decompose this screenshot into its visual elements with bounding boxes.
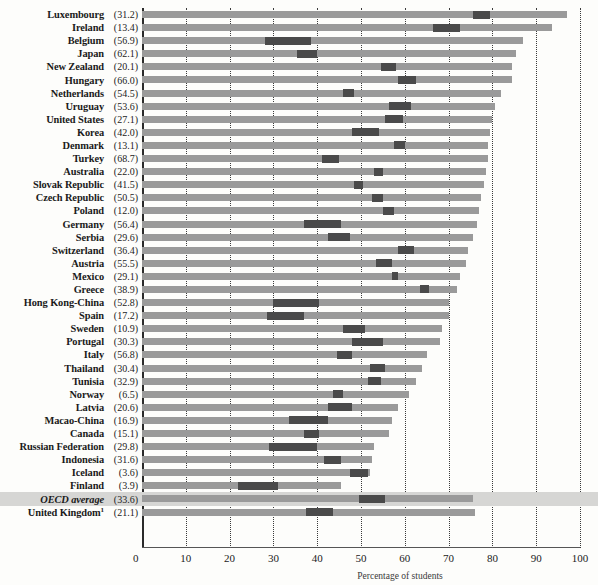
bar-wrap <box>142 482 580 489</box>
bar-segment-total <box>142 155 488 162</box>
category-label-greece: Greece(38.9) <box>0 283 142 296</box>
bar-wrap <box>142 391 580 398</box>
bar-row <box>142 492 580 505</box>
bar-row <box>142 73 580 86</box>
bar-segment-total <box>142 404 398 411</box>
bar-wrap <box>142 129 580 136</box>
bar-segment-total <box>142 351 427 358</box>
country-value: (42.0) <box>104 127 138 138</box>
category-label-hong-kong-china: Hong Kong-China(52.8) <box>0 296 142 309</box>
bar-wrap <box>142 168 580 175</box>
bar-wrap <box>142 155 580 162</box>
bar-wrap <box>142 116 580 123</box>
country-value: (68.7) <box>104 153 138 164</box>
country-value: (3.6) <box>104 467 138 478</box>
bar-wrap <box>142 142 580 149</box>
country-name: Korea <box>77 127 104 138</box>
country-value: (30.4) <box>104 363 138 374</box>
bar-wrap <box>142 286 580 293</box>
category-label-germany: Germany(56.4) <box>0 218 142 231</box>
bar-segment-total <box>142 90 501 97</box>
category-label-new-zealand: New Zealand(20.1) <box>0 60 142 73</box>
bar-row <box>142 87 580 100</box>
bar-segment-highlighted <box>297 50 317 58</box>
gridline-100 <box>580 8 582 548</box>
bar-row <box>142 283 580 296</box>
bar-segment-highlighted <box>473 11 491 19</box>
x-tick-label-30: 30 <box>268 552 279 564</box>
bar-segment-total <box>142 286 457 293</box>
country-value: (50.5) <box>104 192 138 203</box>
bar-row <box>142 322 580 335</box>
country-value: (55.5) <box>104 258 138 269</box>
bar-wrap <box>142 430 580 437</box>
country-name: OECD average <box>40 494 104 505</box>
country-name: Portugal <box>66 336 104 347</box>
category-label-luxembourg: Luxembourg(31.2) <box>0 8 142 21</box>
category-label-column: Luxembourg(31.2)Ireland(13.4)Belgium(56.… <box>0 8 142 548</box>
bar-segment-total <box>142 273 460 280</box>
bar-wrap <box>142 63 580 70</box>
bar-segment-highlighted <box>381 63 396 71</box>
bar-segment-highlighted <box>289 416 328 424</box>
bar-row <box>142 257 580 270</box>
x-tick-label-100: 100 <box>572 552 589 564</box>
country-name: New Zealand <box>47 61 105 72</box>
country-value: (15.1) <box>104 428 138 439</box>
category-label-tunisia: Tunisia(32.9) <box>0 375 142 388</box>
bar-row <box>142 178 580 191</box>
bar-segment-total <box>142 142 488 149</box>
bar-segment-total <box>142 338 440 345</box>
country-value: (66.0) <box>104 75 138 86</box>
bar-row <box>142 362 580 375</box>
bar-wrap <box>142 351 580 358</box>
bar-segment-total <box>142 417 392 424</box>
country-value: (31.2) <box>104 9 138 20</box>
country-name: Turkey <box>73 153 104 164</box>
x-tick-labels: 102030405060708090100 <box>142 552 580 570</box>
bar-row <box>142 388 580 401</box>
bar-segment-highlighted <box>273 299 319 307</box>
bar-segment-total <box>142 207 479 214</box>
country-name: Greece <box>74 284 104 295</box>
bar-segment-total <box>142 469 370 476</box>
bar-row <box>142 506 580 519</box>
chart-root: Luxembourg(31.2)Ireland(13.4)Belgium(56.… <box>0 0 598 585</box>
bar-segment-total <box>142 116 492 123</box>
country-name: Germany <box>63 219 104 230</box>
bar-segment-total <box>142 234 473 241</box>
bar-row <box>142 126 580 139</box>
bar-segment-highlighted <box>265 37 311 45</box>
bar-wrap <box>142 221 580 228</box>
x-axis-title-text: Percentage of students <box>147 571 442 581</box>
bar-segment-highlighted <box>343 89 354 97</box>
bar-wrap <box>142 509 580 516</box>
country-value: (17.2) <box>104 310 138 321</box>
bar-segment-total <box>142 129 490 136</box>
country-value: (62.1) <box>104 48 138 59</box>
country-name: Hungary <box>65 75 104 86</box>
x-tick-label-40: 40 <box>312 552 323 564</box>
bar-row <box>142 440 580 453</box>
x-tick-label-10: 10 <box>180 552 191 564</box>
bar-segment-highlighted <box>352 338 383 346</box>
bar-row <box>142 427 580 440</box>
bar-segment-highlighted <box>333 390 344 398</box>
bar-wrap <box>142 469 580 476</box>
country-name: Belgium <box>68 35 104 46</box>
country-value: (31.6) <box>104 454 138 465</box>
country-value: (41.5) <box>104 179 138 190</box>
bar-segment-highlighted <box>354 181 363 189</box>
bar-wrap <box>142 24 580 31</box>
country-name: Austria <box>71 258 104 269</box>
bar-wrap <box>142 247 580 254</box>
bar-segment-total <box>142 443 374 450</box>
bar-rows <box>142 8 580 539</box>
bar-segment-highlighted <box>352 128 378 136</box>
bar-segment-highlighted <box>322 155 340 163</box>
country-value: (16.9) <box>104 415 138 426</box>
country-name: Australia <box>63 166 104 177</box>
bar-segment-total <box>142 37 523 44</box>
bar-wrap <box>142 207 580 214</box>
bar-segment-total <box>142 325 442 332</box>
